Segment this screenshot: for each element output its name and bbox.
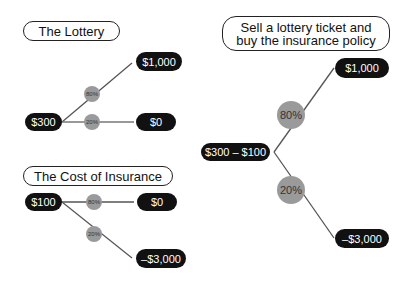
insurance-title-text: The Cost of Insurance — [34, 170, 162, 183]
combined-title-line1: Sell a lottery ticket and — [241, 21, 372, 34]
lottery-outcome-win: $1,000 — [136, 52, 182, 71]
lottery-title-text: The Lottery — [39, 25, 105, 38]
insurance-title: The Cost of Insurance — [23, 166, 173, 186]
lottery-start-node: $300 — [25, 113, 62, 131]
lottery-outcome-lose: $0 — [136, 113, 176, 131]
combined-prob-20: 20% — [277, 176, 305, 204]
lottery-title: The Lottery — [23, 21, 120, 41]
combined-prob-80: 80% — [277, 101, 305, 129]
insurance-outcome-no-claim: $0 — [137, 193, 177, 211]
insurance-start-node: $100 — [25, 193, 62, 211]
lottery-prob-80: 80% — [84, 86, 100, 102]
insurance-outcome-claim: –$3,000 — [136, 249, 186, 268]
combined-title-line2: buy the insurance policy — [236, 34, 375, 47]
combined-outcome-loss: –$3,000 — [335, 229, 389, 248]
combined-title: Sell a lottery ticket and buy the insura… — [222, 16, 390, 51]
lottery-prob-20: 20% — [84, 114, 100, 130]
insurance-prob-20: 20% — [86, 226, 102, 242]
combined-outcome-win: $1,000 — [335, 58, 389, 78]
insurance-prob-80: 80% — [86, 194, 102, 210]
combined-start-node: $300 – $100 — [201, 143, 270, 161]
